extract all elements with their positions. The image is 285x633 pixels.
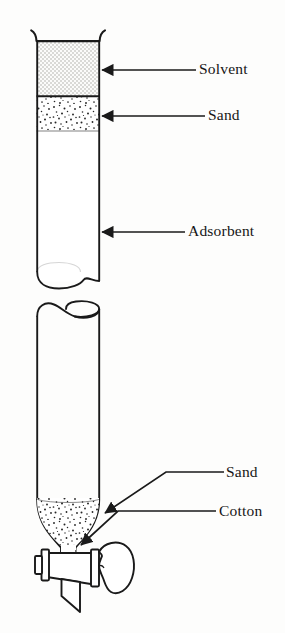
stopcock-end-cap: [35, 556, 42, 574]
label-sand-top: Sand: [208, 107, 240, 123]
sand-band-top: [30, 96, 106, 131]
label-solvent: Solvent: [199, 61, 248, 77]
stopcock-knob[interactable]: [99, 543, 134, 594]
label-cotton: Cotton: [219, 503, 262, 519]
label-adsorbent: Adsorbent: [188, 223, 254, 239]
upper-column-segment: [30, 30, 106, 288]
solvent-band: [30, 41, 106, 96]
stopcock-flange-right: [91, 550, 99, 587]
column-top-lip-left: [31, 30, 36, 41]
column-top-lip-right: [100, 30, 105, 41]
leader-lines: [81, 70, 224, 545]
adsorbent-band: [30, 131, 106, 283]
stopcock-valve[interactable]: [35, 543, 134, 612]
column-diagram: [0, 0, 285, 633]
figure-root: Solvent Sand Adsorbent Sand Cotton: [0, 0, 285, 633]
label-sand-bottom: Sand: [226, 464, 258, 480]
cotton-plug: [62, 545, 76, 553]
stopcock-outlet-tip: [62, 579, 81, 612]
lower-column-segment: [30, 301, 110, 554]
leader-cotton: [81, 511, 216, 545]
leader-sand-bottom: [105, 472, 224, 513]
